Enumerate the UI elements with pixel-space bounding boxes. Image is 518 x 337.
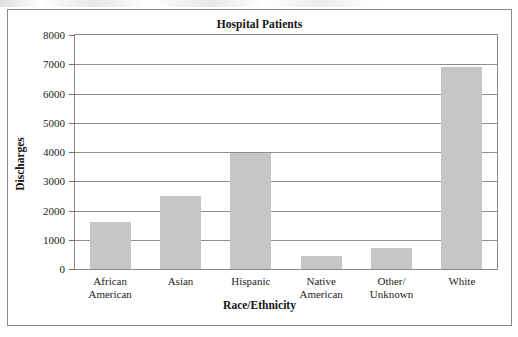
x-axis-tick-label: Native American xyxy=(299,275,342,301)
y-axis-tick xyxy=(69,35,75,36)
y-axis-tick xyxy=(69,123,75,124)
x-axis-tick-label: Other/ Unknown xyxy=(370,275,413,301)
y-axis-tick-label: 8000 xyxy=(43,29,65,41)
bar xyxy=(441,67,482,269)
scan-artifact xyxy=(0,0,518,7)
gridline xyxy=(75,181,497,182)
bar xyxy=(230,153,271,269)
y-axis-tick-label: 3000 xyxy=(43,175,65,187)
y-axis-tick xyxy=(69,211,75,212)
y-axis-tick-label: 4000 xyxy=(43,146,65,158)
y-axis-tick xyxy=(69,64,75,65)
chart-figure: Hospital Patients Discharges 01000200030… xyxy=(7,9,512,326)
bar xyxy=(90,222,131,269)
bar xyxy=(371,248,412,269)
y-axis-tick xyxy=(69,94,75,95)
y-axis-tick xyxy=(69,269,75,270)
y-axis-tick xyxy=(69,181,75,182)
gridline xyxy=(75,94,497,95)
y-axis-tick-label: 2000 xyxy=(43,205,65,217)
x-axis-title: Race/Ethnicity xyxy=(8,299,511,311)
gridline xyxy=(75,123,497,124)
y-axis-tick-label: 6000 xyxy=(43,88,65,100)
y-axis-tick-label: 7000 xyxy=(43,58,65,70)
y-axis-title: Discharges xyxy=(14,119,26,209)
gridline xyxy=(75,240,497,241)
gridline xyxy=(75,64,497,65)
x-axis-tick-label: Hispanic xyxy=(231,275,270,288)
x-axis-tick-label: African American xyxy=(88,275,131,301)
gridline xyxy=(75,211,497,212)
y-axis-tick xyxy=(69,152,75,153)
x-axis-tick-label: Asian xyxy=(168,275,194,288)
y-axis-tick-label: 0 xyxy=(60,263,66,275)
plot-area: 010002000300040005000600070008000 Africa… xyxy=(74,34,498,270)
x-axis-tick-label: White xyxy=(448,275,475,288)
y-axis-tick-label: 5000 xyxy=(43,117,65,129)
bar xyxy=(301,256,342,269)
bar xyxy=(160,196,201,269)
chart-title: Hospital Patients xyxy=(8,18,511,30)
y-axis-tick xyxy=(69,240,75,241)
gridline xyxy=(75,152,497,153)
y-axis-tick-label: 1000 xyxy=(43,234,65,246)
